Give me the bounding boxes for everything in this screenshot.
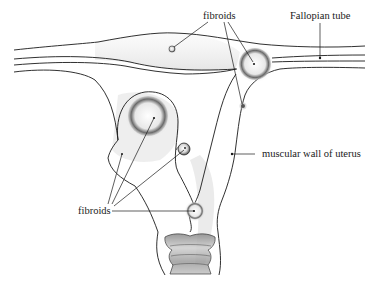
label-muscular-wall: muscular wall of uterus [262,148,361,159]
fibroid-large-left [124,92,172,140]
fibroids [121,45,274,222]
label-fibroids-left: fibroids [78,205,111,216]
uterus-fibroids-diagram: fibroids Fallopian tube muscular wall of… [0,0,375,282]
cervix [165,234,215,274]
label-fallopian-tube: Fallopian tube [290,10,351,21]
label-fibroids-top: fibroids [203,10,236,21]
fibroid-pedunculated [176,143,190,155]
fibroid-upper-right [236,45,274,83]
fibroid-right-arm-small [240,103,247,110]
